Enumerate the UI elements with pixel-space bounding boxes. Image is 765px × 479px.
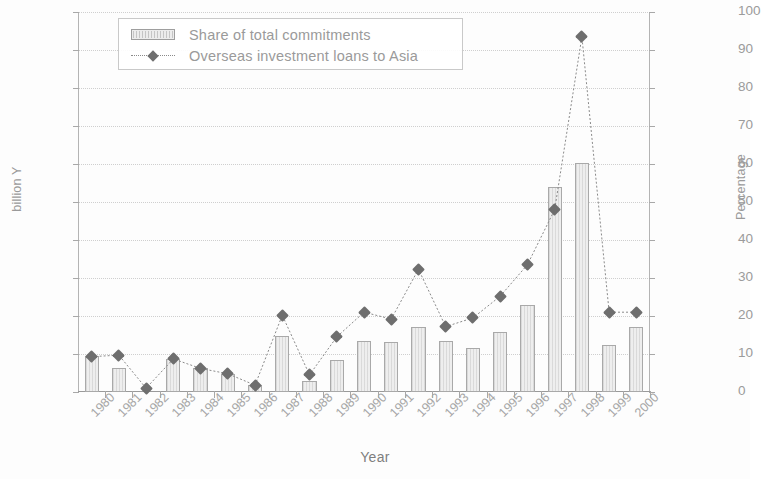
line-marker-swatch-icon xyxy=(131,50,175,61)
y-tick-label-right: 60 xyxy=(738,155,765,170)
x-tick-label-1998: 1998 xyxy=(578,390,608,420)
y-tick-label-right: 40 xyxy=(738,231,765,246)
x-tick-label-1984: 1984 xyxy=(197,390,227,420)
y-tick-label-right: 10 xyxy=(738,345,765,360)
x-tick-label-1996: 1996 xyxy=(523,390,553,420)
x-tick-label-1988: 1988 xyxy=(306,390,336,420)
x-tick-label-1994: 1994 xyxy=(469,390,499,420)
x-tick-label-1985: 1985 xyxy=(224,390,254,420)
x-tick-label-2000: 2000 xyxy=(632,390,662,420)
legend-label-line: Overseas investment loans to Asia xyxy=(189,48,418,64)
x-tick-label-1997: 1997 xyxy=(551,390,581,420)
y-tick-label-right: 30 xyxy=(738,269,765,284)
x-tick-label-1991: 1991 xyxy=(387,390,417,420)
y-axis-left-title: billion Y xyxy=(10,139,24,239)
y-tick-left xyxy=(73,392,79,393)
x-tick-label-1995: 1995 xyxy=(496,390,526,420)
x-tick-label-1990: 1990 xyxy=(360,390,390,420)
legend-item-bars: Share of total commitments xyxy=(127,24,454,45)
y-tick-label-right: 70 xyxy=(738,117,765,132)
x-tick-label-1986: 1986 xyxy=(251,390,281,420)
x-tick-label-1992: 1992 xyxy=(414,390,444,420)
y-tick-label-right: 80 xyxy=(738,79,765,94)
y-axis-right-title: Percentage xyxy=(734,132,748,242)
x-tick-label-1987: 1987 xyxy=(278,390,308,420)
x-tick-label-1983: 1983 xyxy=(169,390,199,420)
x-tick-label-1993: 1993 xyxy=(442,390,472,420)
bar-swatch-icon xyxy=(131,29,175,40)
y-tick-label-right: 50 xyxy=(738,193,765,208)
x-tick-label-1980: 1980 xyxy=(88,390,118,420)
chart-legend: Share of total commitments Overseas inve… xyxy=(118,18,463,70)
x-tick-label-1989: 1989 xyxy=(333,390,363,420)
x-tick-label-1981: 1981 xyxy=(115,390,145,420)
y-tick-label-right: 20 xyxy=(738,307,765,322)
x-axis-title: Year xyxy=(0,449,750,465)
legend-label-bars: Share of total commitments xyxy=(189,27,371,43)
x-tick-label-1999: 1999 xyxy=(605,390,635,420)
legend-item-line: Overseas investment loans to Asia xyxy=(127,45,454,66)
y-tick-label-right: 90 xyxy=(738,41,765,56)
y-tick-label-right: 100 xyxy=(738,3,765,18)
y-tick-label-right: 0 xyxy=(738,383,765,398)
